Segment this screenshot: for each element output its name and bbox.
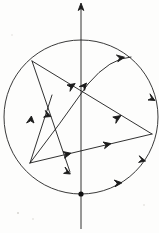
arrowhead-icon [79, 83, 86, 90]
arrowhead-icon [67, 84, 75, 92]
paper-noise-group [11, 34, 145, 220]
noise-speck [32, 218, 34, 220]
arrowhead-icon [148, 94, 155, 101]
noise-speck [17, 212, 19, 214]
diagram-figure: Circle with inscribed directed segments … [0, 0, 159, 233]
noise-speck [11, 34, 12, 35]
arrowhead-icon [114, 180, 122, 187]
arc-b-to-f-group [30, 55, 131, 163]
arc-b-to-f [30, 57, 131, 163]
segment-a-to-c [32, 61, 152, 134]
arrowhead-icon [27, 116, 34, 123]
arrowhead-icon [139, 156, 146, 163]
segment-a-to-c-group [32, 61, 152, 134]
arrowhead-icon [116, 55, 124, 62]
segment-b-to-a-group [27, 95, 52, 163]
noise-speck [143, 204, 145, 206]
axis-circle-node-dot [78, 191, 83, 196]
segment-b-to-a [30, 95, 52, 163]
geometry-diagram-canvas [0, 0, 159, 233]
arrowhead-icon [113, 116, 121, 124]
